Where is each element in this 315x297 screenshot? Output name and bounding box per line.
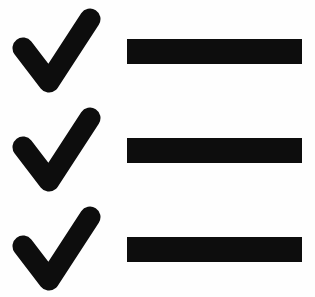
check-mark-icon[interactable] [10,204,102,294]
list-item[interactable] [0,99,315,198]
list-item-text-bar [127,237,302,262]
list-item-text-bar [127,138,302,163]
check-mark-icon[interactable] [10,6,102,96]
list-item[interactable] [0,0,315,99]
list-item-text-bar [127,39,302,64]
checklist-graphic [0,0,315,297]
list-item[interactable] [0,198,315,297]
check-mark-icon[interactable] [10,105,102,195]
